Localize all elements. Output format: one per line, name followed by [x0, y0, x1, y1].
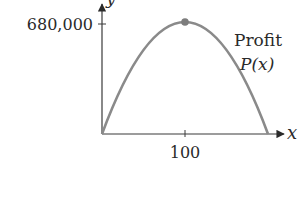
- y-tick-label: 680,000: [27, 15, 93, 34]
- y-axis-label: y: [105, 0, 116, 8]
- maximum-point: [181, 18, 189, 26]
- x-tick-label: 100: [170, 143, 201, 162]
- profit-chart: y x 680,000 100 Profit P(x): [0, 0, 300, 204]
- series-label-profit: Profit: [234, 30, 282, 50]
- x-axis-label: x: [287, 122, 297, 143]
- series-label-px: P(x): [239, 54, 274, 74]
